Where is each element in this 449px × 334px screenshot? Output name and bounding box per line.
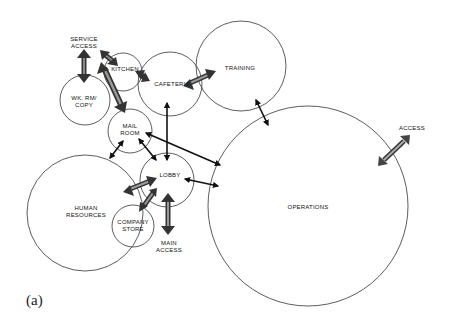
arrow-service-access-wk-rm	[77, 49, 91, 83]
label-operations: OPERATIONS	[288, 204, 329, 210]
label-cafeteria: CAFETERIA	[154, 81, 189, 87]
label-company-store: COMPANYSTORE	[117, 219, 148, 232]
arrow-service-access-kitchen	[100, 50, 118, 66]
adjacency-diagram: SERVICEACCESS KITCHEN WK. RM/COPY CAFETE…	[0, 0, 449, 334]
label-operations-access: ACCESS	[399, 125, 425, 131]
label-training: TRAINING	[225, 65, 255, 71]
label-main-access: MAINACCESS	[156, 240, 182, 253]
label-wk-rm-copy: WK. RM/COPY	[71, 95, 97, 108]
label-lobby: LOBBY	[159, 172, 180, 178]
heavy-arrows	[77, 49, 410, 235]
arrow-mail-room-operations	[146, 133, 220, 165]
arrow-lobby-main-access	[161, 193, 175, 235]
arrow-lobby-operations	[185, 179, 218, 186]
light-arrows	[110, 100, 268, 186]
figure-caption: (a)	[26, 292, 43, 309]
label-kitchen: KITCHEN	[111, 66, 139, 72]
label-human-resources: HUMANRESOURCES	[66, 205, 106, 218]
label-service-access: SERVICEACCESS	[70, 36, 98, 49]
diagram-svg: SERVICEACCESS KITCHEN WK. RM/COPY CAFETE…	[0, 0, 449, 334]
label-mail-room: MAILROOM	[120, 123, 139, 136]
